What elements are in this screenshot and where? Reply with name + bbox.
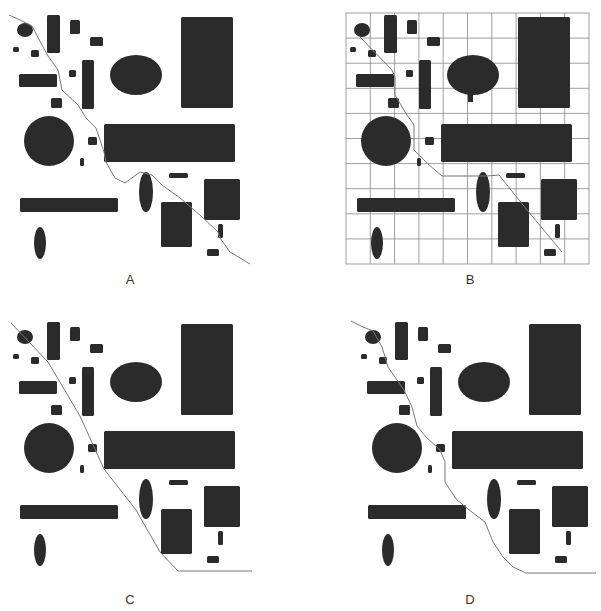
obstacle <box>368 50 376 57</box>
obstacle <box>427 37 440 46</box>
obstacle <box>24 116 74 166</box>
obstacle <box>476 172 490 212</box>
obstacle <box>428 465 432 473</box>
obstacles <box>13 15 240 259</box>
obstacle <box>418 327 428 341</box>
obstacle <box>19 74 57 87</box>
panel-c: C <box>11 322 252 607</box>
obstacle <box>438 344 451 353</box>
obstacle <box>384 15 397 53</box>
obstacle <box>90 37 103 46</box>
panel-label: A <box>126 272 135 287</box>
obstacle <box>80 465 84 473</box>
obstacle <box>161 509 192 554</box>
obstacle <box>169 480 188 485</box>
obstacle <box>407 20 417 34</box>
panel-label: C <box>125 592 134 607</box>
obstacle <box>204 179 240 220</box>
obstacle <box>361 116 411 166</box>
obstacle <box>47 322 60 360</box>
obstacle <box>417 377 424 384</box>
obstacles <box>13 322 240 566</box>
obstacle <box>69 377 76 384</box>
obstacle <box>31 50 39 57</box>
obstacle <box>139 172 153 212</box>
obstacle <box>90 344 103 353</box>
obstacle <box>82 367 94 416</box>
obstacle <box>425 137 434 145</box>
obstacle <box>20 505 118 519</box>
obstacle <box>169 173 188 178</box>
obstacle <box>207 556 219 563</box>
obstacle <box>357 198 455 212</box>
obstacle <box>20 198 118 212</box>
obstacle <box>104 124 235 162</box>
obstacle <box>509 509 540 554</box>
obstacle <box>110 55 162 95</box>
obstacle <box>468 88 473 102</box>
obstacle <box>430 367 442 416</box>
panel-label: B <box>466 272 475 287</box>
obstacle <box>529 324 581 415</box>
obstacle <box>356 74 394 87</box>
obstacle <box>181 324 233 415</box>
obstacle <box>350 47 356 52</box>
obstacle <box>458 362 510 402</box>
obstacle <box>395 322 408 360</box>
obstacle <box>204 486 240 527</box>
obstacle <box>552 486 588 527</box>
obstacle <box>517 480 536 485</box>
obstacle <box>31 357 39 364</box>
obstacle <box>452 431 583 469</box>
path-planning-comparison-figure: ABCD <box>0 0 601 611</box>
obstacle <box>13 47 19 52</box>
obstacle <box>544 249 556 256</box>
obstacle <box>104 431 235 469</box>
obstacle <box>218 531 223 545</box>
obstacle <box>518 17 570 108</box>
obstacle <box>406 70 413 77</box>
obstacle <box>19 381 57 394</box>
obstacle <box>47 15 60 53</box>
obstacle <box>24 423 74 473</box>
obstacle <box>207 249 219 256</box>
obstacle <box>88 137 97 145</box>
obstacle <box>506 173 525 178</box>
panel-b: B <box>346 13 589 287</box>
obstacle <box>13 354 19 359</box>
obstacle <box>70 20 80 34</box>
obstacle <box>51 405 62 415</box>
obstacle <box>354 23 370 37</box>
obstacle <box>487 479 501 519</box>
obstacle <box>51 98 62 108</box>
obstacle <box>555 224 560 238</box>
obstacle <box>181 17 233 108</box>
obstacle <box>498 202 529 247</box>
obstacle <box>110 362 162 402</box>
obstacle <box>361 354 367 359</box>
panel-label: D <box>465 592 474 607</box>
panel-a: A <box>9 15 250 287</box>
obstacle <box>382 534 394 566</box>
obstacle <box>34 534 46 566</box>
obstacle <box>82 60 94 109</box>
obstacle <box>139 479 153 519</box>
obstacle <box>371 227 383 259</box>
obstacle <box>419 60 431 109</box>
obstacle <box>566 531 571 545</box>
obstacle <box>34 227 46 259</box>
obstacle <box>541 179 577 220</box>
obstacle <box>441 124 572 162</box>
obstacle <box>368 505 466 519</box>
panel-d: D <box>351 321 596 607</box>
obstacle <box>555 556 567 563</box>
obstacle <box>417 158 421 166</box>
obstacles <box>361 322 588 566</box>
obstacle <box>161 202 192 247</box>
obstacle <box>399 405 410 415</box>
obstacles <box>350 15 577 259</box>
obstacle <box>218 224 223 238</box>
obstacle <box>80 158 84 166</box>
obstacle <box>70 327 80 341</box>
obstacle <box>372 423 422 473</box>
